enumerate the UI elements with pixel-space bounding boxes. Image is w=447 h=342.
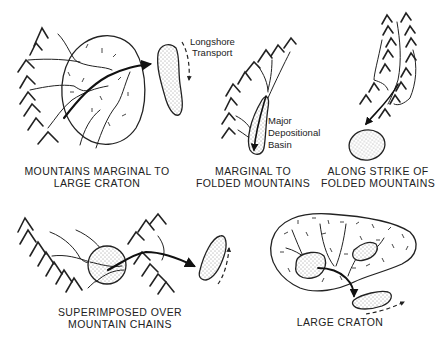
mountain-chain-icon <box>360 13 416 118</box>
panel-label-line-2: LARGE CRATON <box>54 177 141 189</box>
panel-label-line-1: MOUNTAINS MARGINAL TO <box>24 165 169 177</box>
annotation-major: Major <box>268 115 292 126</box>
panel-along-strike-of-folded-mountains: ALONG STRIKE OF FOLDED MOUNTAINS <box>321 13 435 189</box>
depositional-basin <box>296 252 326 278</box>
panel-superimposed-over-mountain-chains: SUPERIMPOSED OVER MOUNTAIN CHAINS <box>18 214 229 330</box>
depositional-basin <box>353 242 378 260</box>
depositional-basin <box>353 291 392 309</box>
annotation-transport: Transport <box>192 47 233 58</box>
drainage-streams <box>374 22 416 105</box>
annotation-basin: Basin <box>268 139 292 150</box>
panel-label-line-2: MOUNTAIN CHAINS <box>68 318 172 330</box>
craton-outline <box>271 214 416 291</box>
panel-label-line-1: ALONG STRIKE OF <box>327 165 428 177</box>
panel-large-craton: LARGE CRATON <box>271 214 416 328</box>
panel-label-line-1: LARGE CRATON <box>297 316 384 328</box>
depositional-basin <box>347 127 388 163</box>
longshore-transport-arrow <box>182 42 189 80</box>
depositional-basin-settings-diagram: Longshore Transport MOUNTAINS MARGINAL T… <box>0 0 447 342</box>
panel-label-line-2: FOLDED MOUNTAINS <box>321 177 435 189</box>
panel-mountains-marginal-to-large-craton: Longshore Transport MOUNTAINS MARGINAL T… <box>18 28 235 189</box>
panel-label-line-1: SUPERIMPOSED OVER <box>58 306 182 318</box>
annotation-depositional: Depositional <box>268 127 320 138</box>
main-river-arrow <box>64 64 150 118</box>
depositional-basin <box>88 246 126 284</box>
annotation-longshore: Longshore <box>190 36 235 47</box>
panel-marginal-to-folded-mountains: Major Depositional Basin MARGINAL TO FOL… <box>196 38 320 189</box>
craton-tick-marks <box>68 44 128 126</box>
main-river-arrow <box>318 268 354 296</box>
depositional-basin <box>199 236 226 280</box>
drainage-streams <box>28 34 130 148</box>
panel-label-line-2: FOLDED MOUNTAINS <box>196 177 310 189</box>
panel-label-line-1: MARGINAL TO <box>215 165 291 177</box>
depositional-basin <box>158 45 183 116</box>
